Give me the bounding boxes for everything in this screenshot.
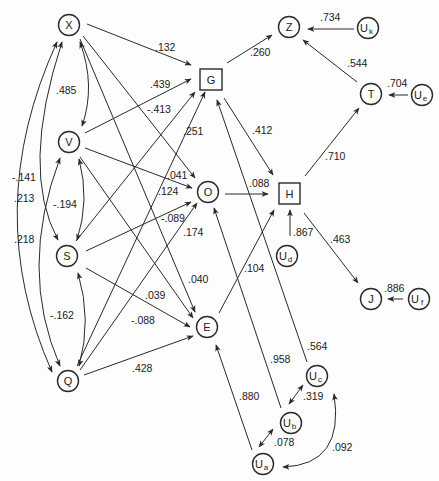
node-g: G [200,69,222,90]
coef-ue-t: .704 [387,77,408,89]
coef-v-o: .041 [167,169,188,181]
node-ud: Ud [277,246,298,267]
node-uc: Uc [307,366,328,387]
node-e: E [197,317,218,338]
coef-corr-ub-uc: .319 [303,390,324,402]
coef-s-o: -.089 [161,212,185,224]
svg-text:T: T [368,88,375,100]
node-ua: Ua [253,454,274,475]
coef-uk-z: .734 [320,11,341,23]
node-uf: Uf [409,289,430,310]
node-s: S [57,246,78,267]
coef-t-z: .544 [347,57,368,69]
coef-uf-j: .886 [384,282,405,294]
svg-text:U: U [279,250,287,262]
coef-e-h: .104 [244,262,265,274]
coef-h-t: .710 [325,150,346,162]
corr-ub-uc [289,385,303,404]
node-v: V [59,132,80,153]
svg-text:c: c [318,375,322,384]
node-ub: Ub [281,413,302,434]
path-diagram: X V S Q G O E H Z Uk T Ue Ud J Uf Uc Ub … [0,0,439,481]
svg-text:Q: Q [64,375,73,387]
coef-corr-ua-uc: .092 [332,441,353,453]
svg-text:a: a [264,463,269,472]
svg-text:X: X [65,19,73,31]
corr-x-v [80,42,89,126]
node-x: X [59,15,80,36]
svg-text:U: U [411,293,419,305]
coef-ud-h: .867 [293,226,314,238]
path-x-o [83,36,195,178]
path-q-o [80,203,197,370]
svg-text:V: V [65,136,73,148]
svg-text:S: S [63,250,70,262]
node-h: H [279,183,300,204]
svg-text:E: E [203,321,210,333]
path-ub-o [214,208,281,408]
svg-text:U: U [360,22,368,34]
nodes: X V S Q G O E H Z Uk T Ue Ud J Uf Uc Ub … [57,15,433,475]
coef-corr-v-q: .218 [14,233,35,245]
coef-corr-v-s: -.194 [53,198,77,210]
svg-text:O: O [204,186,213,198]
svg-text:Z: Z [286,21,293,33]
svg-text:U: U [309,370,317,382]
coef-h-j: .463 [330,233,351,245]
coef-x-e: .124 [158,185,179,197]
node-ue: Ue [412,85,433,106]
coef-corr-x-q: -.141 [12,171,36,183]
svg-text:b: b [292,422,297,431]
svg-text:d: d [288,255,292,264]
coef-x-g: .132 [155,41,176,53]
coef-uc-g: .564 [307,340,328,352]
corr-s-q [78,273,85,366]
coef-v-e: .040 [188,273,209,285]
coef-corr-ua-ub: .078 [274,436,295,448]
svg-text:U: U [283,417,291,429]
coef-ua-e: .880 [239,390,260,402]
corr-x-q [17,42,57,372]
coef-q-e-a: -.088 [131,314,155,326]
node-uk: Uk [358,18,379,39]
node-t: T [361,84,382,105]
svg-text:J: J [368,293,374,305]
path-g-h [224,98,273,175]
coef-q-o: .174 [183,226,204,238]
coef-g-z: .260 [250,46,271,58]
svg-text:H: H [286,188,294,200]
coef-ub-o: .958 [270,353,291,365]
coef-q-e-b: .428 [132,362,153,374]
node-j: J [361,289,382,310]
path-h-t [305,108,359,176]
node-o: O [198,182,219,203]
coef-g-h: .412 [252,124,273,136]
directed-paths [76,24,408,450]
coef-o-h: .088 [249,177,270,189]
coef-v-g: .439 [150,78,171,90]
corr-ua-ub [259,429,273,447]
path-h-j [304,213,358,283]
corr-v-s [77,159,84,240]
coef-corr-s-q: -.162 [50,309,74,321]
svg-text:U: U [255,458,263,470]
node-z: Z [279,17,300,38]
coef-corr-x-s: .213 [14,192,35,204]
coef-s-e: .039 [145,289,166,301]
coef-corr-x-v: .485 [56,84,77,96]
coef-x-o: -.413 [147,103,171,115]
svg-text:G: G [207,74,216,86]
coef-q-g: .251 [183,125,204,137]
svg-text:U: U [414,89,422,101]
node-q: Q [58,371,79,392]
svg-text:e: e [423,94,428,103]
